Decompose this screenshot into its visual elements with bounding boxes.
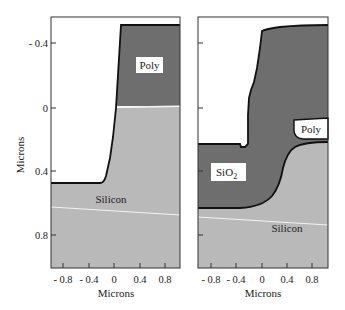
right-poly-label: Poly [301,123,322,135]
right-x-axis-title: Microns [245,287,282,299]
right-silicon-label: Silicon [271,222,303,234]
y-tick-label: 0.4 [35,166,49,177]
left-x-tick-label: 0.4 [133,274,147,285]
oxide-label-base: SiO [216,166,233,178]
left-poly-silicon-interface [116,106,180,107]
right-x-tick-label: 0.8 [305,274,318,285]
left-silicon-label: Silicon [95,193,127,205]
left-poly-label: Poly [139,59,160,71]
left-x-tick-label: 0 [111,274,116,285]
y-tick-label: 0 [43,103,48,114]
left-panel: Poly Silicon - 0.4 0 0.4 0.8 Microns [14,17,180,299]
left-x-tick-label: - 0.4 [79,274,99,285]
right-x-tick-label: 0.4 [280,274,294,285]
right-x-tick-label: - 0.4 [226,274,246,285]
cross-section-figure: Poly Silicon - 0.4 0 0.4 0.8 Microns [0,0,345,310]
right-panel: Poly SiO2 Silicon - 0.8 [198,17,328,299]
left-x-axis-title: Microns [98,287,135,299]
left-x-tick-label: - 0.8 [53,274,72,285]
left-x-tick-label: 0.8 [158,274,171,285]
right-x-tick-label: 0 [259,274,264,285]
right-x-tick-label: - 0.8 [201,274,220,285]
y-axis-title: Microns [14,137,26,174]
y-tick-label: - 0.4 [29,38,49,49]
oxide-label-subscript: 2 [233,172,237,181]
left-silicon-region [51,107,180,268]
figure-canvas: Poly Silicon - 0.4 0 0.4 0.8 Microns [0,0,345,310]
y-tick-label: 0.8 [35,230,48,241]
